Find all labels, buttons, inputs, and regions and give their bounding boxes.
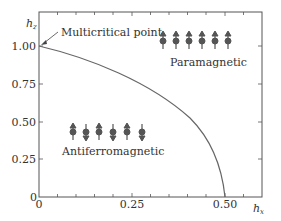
y-tick-0: 0 <box>30 191 37 204</box>
y-tick-025: 0.25 <box>12 153 37 166</box>
spin-up-icon <box>212 31 218 49</box>
multicritical-label: Multicritical point <box>61 26 163 39</box>
spin-up-icon <box>160 31 166 49</box>
spin-up-icon <box>96 123 102 140</box>
y-tick-050: 0.50 <box>12 116 37 129</box>
x-tick-labels: 0 0.25 0.50 <box>36 198 238 211</box>
spin-up-icon <box>186 31 192 49</box>
y-axis-label: hz <box>26 17 37 31</box>
spin-down-icon <box>83 124 89 141</box>
x-axis-label: hx <box>253 202 264 216</box>
spin-up-icon <box>199 31 205 49</box>
antiferromagnetic-label: Antiferromagnetic <box>61 145 164 158</box>
y-tick-075: 0.75 <box>12 78 37 91</box>
x-tick-050: 0.50 <box>213 198 238 211</box>
x-tick-025: 0.25 <box>120 198 145 211</box>
spin-down-icon <box>139 124 145 141</box>
paramagnetic-label: Paramagnetic <box>170 56 247 69</box>
spin-down-icon <box>110 124 116 141</box>
spin-up-icon <box>173 31 179 49</box>
paramagnetic-spins <box>160 31 231 49</box>
y-tick-100: 1.00 <box>12 40 37 53</box>
spin-up-icon <box>70 123 76 140</box>
phase-diagram-chart: 0 0.25 0.50 0 0.25 0.50 0.75 1.00 hz hx … <box>0 0 281 221</box>
arrow-head-icon <box>41 40 47 45</box>
y-tick-labels: 0 0.25 0.50 0.75 1.00 <box>12 40 38 204</box>
spin-up-icon <box>225 31 231 49</box>
spin-up-icon <box>124 123 130 140</box>
antiferromagnetic-spins <box>70 123 145 141</box>
